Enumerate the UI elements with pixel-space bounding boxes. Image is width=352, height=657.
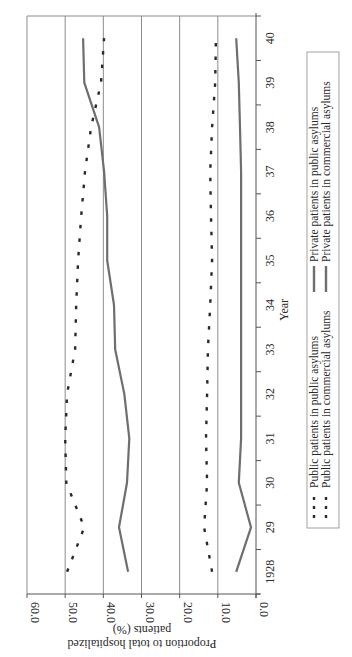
y-axis-title: Proportion to total hospitalized patient…	[68, 623, 217, 651]
x-axis-tick-labels: 1928293031323334353637383940	[256, 16, 277, 594]
x-tick-label: 38	[263, 121, 277, 133]
series-line-4	[83, 38, 129, 572]
y-axis-title-line-2: patients (%)	[113, 623, 171, 637]
y-tick-label: 40.0	[104, 602, 118, 623]
x-tick-label: 35	[263, 255, 277, 267]
legend-label: Public patients in commercial asylums	[320, 310, 333, 488]
gridlines	[27, 16, 256, 598]
x-tick-label: 39	[263, 77, 277, 89]
series-line-2	[204, 38, 216, 572]
y-tick-label: 30.0	[143, 602, 157, 623]
chart: 0.010.020.030.040.050.060.0 192829303132…	[0, 0, 352, 657]
y-tick-label: 50.0	[66, 602, 80, 623]
x-tick-label: 33	[263, 343, 277, 355]
x-tick-label: 36	[263, 210, 277, 222]
x-axis-title: Year	[277, 299, 291, 321]
x-tick-label: 1928	[263, 560, 277, 584]
y-axis-tick-labels: 0.010.020.030.040.050.060.0	[28, 602, 271, 623]
legend: Public patients in public asylumsPublic …	[307, 52, 339, 528]
legend-label: Private patients in commercial asylums	[320, 81, 333, 262]
x-tick-label: 34	[263, 299, 277, 311]
x-tick-label: 32	[263, 388, 277, 400]
series-line-3	[236, 38, 251, 572]
x-tick-label: 29	[263, 521, 277, 533]
series-line-1	[65, 38, 104, 572]
y-tick-label: 10.0	[219, 602, 233, 623]
y-tick-label: 20.0	[181, 602, 195, 623]
plot-frame	[27, 13, 260, 598]
x-tick-label: 31	[263, 432, 277, 444]
x-tick-label: 40	[263, 32, 277, 44]
y-axis-title-line-1: Proportion to total hospitalized	[68, 637, 217, 651]
x-tick-label: 37	[263, 166, 277, 178]
x-tick-label: 30	[263, 477, 277, 489]
legend-item: Private patients in commercial asylums	[320, 81, 333, 292]
y-tick-label: 0.0	[257, 602, 271, 617]
series-lines	[65, 38, 251, 572]
y-tick-label: 60.0	[28, 602, 42, 623]
legend-item: Public patients in commercial asylums	[320, 310, 333, 518]
